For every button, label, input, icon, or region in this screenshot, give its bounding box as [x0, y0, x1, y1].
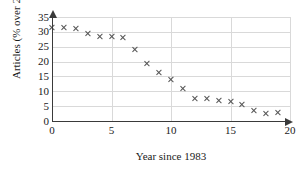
x-axis-line	[52, 121, 287, 122]
x-axis-tick-label: 15	[219, 124, 243, 136]
data-point-marker	[132, 46, 139, 53]
y-axis-tick-label: 30	[3, 26, 49, 37]
data-point-marker	[168, 76, 175, 83]
gridline-vertical	[290, 17, 291, 121]
y-axis-tick-label: 20	[3, 56, 49, 67]
data-point-marker	[156, 69, 163, 76]
y-axis-tick-label: 15	[3, 71, 49, 82]
x-axis-title: Year since 1983	[52, 150, 290, 162]
data-point-marker	[60, 24, 67, 31]
y-axis-tick-label: 10	[3, 86, 49, 97]
y-axis-line	[52, 17, 53, 122]
data-point-marker	[144, 60, 151, 67]
data-point-marker	[239, 101, 246, 108]
x-axis-tick-label: 20	[278, 124, 302, 136]
y-axis-tick-label: 35	[3, 12, 49, 23]
data-point-marker	[179, 85, 186, 92]
data-point-marker	[108, 33, 115, 40]
x-axis-tick-label: 5	[100, 124, 124, 136]
data-point-marker	[227, 98, 234, 105]
gridline-vertical	[231, 17, 232, 121]
x-axis-tick-label: 10	[159, 124, 183, 136]
data-point-marker	[191, 95, 198, 102]
data-point-marker	[215, 97, 222, 104]
gridline-vertical	[171, 17, 172, 121]
y-axis-tick-labels: 05101520253035	[0, 0, 49, 173]
data-point-marker	[120, 34, 127, 41]
y-axis-tick-label: 5	[3, 101, 49, 112]
x-axis-tick-label: 0	[40, 124, 64, 136]
data-point-marker	[72, 25, 79, 32]
data-point-marker	[203, 95, 210, 102]
plot-area	[52, 17, 290, 121]
data-point-marker	[251, 107, 258, 114]
y-axis-tick-label: 25	[3, 41, 49, 52]
data-point-marker	[275, 109, 282, 116]
data-point-marker	[263, 110, 270, 117]
data-point-marker	[96, 33, 103, 40]
scatter-chart-figure: Articles (% over 25) 05101520253035 Year…	[0, 0, 304, 173]
data-point-marker	[84, 30, 91, 37]
y-axis-arrow-icon	[49, 10, 57, 18]
